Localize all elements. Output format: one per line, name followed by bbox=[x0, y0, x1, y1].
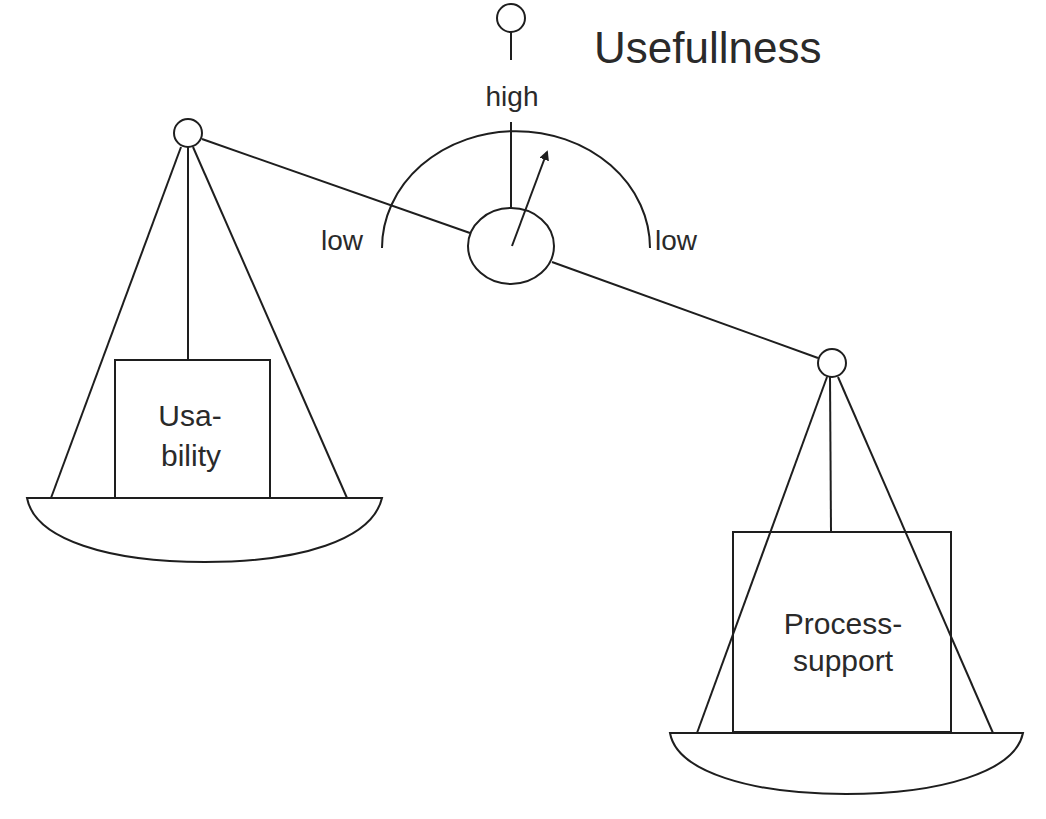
right-rope-center bbox=[830, 377, 831, 532]
gauge-low-right-label: low bbox=[655, 225, 698, 256]
left-bowl bbox=[27, 498, 382, 562]
top-knob bbox=[497, 4, 525, 32]
right-bowl bbox=[670, 733, 1023, 794]
balance-scale-diagram: Usefullness high low low Usa- bility Pro… bbox=[0, 0, 1046, 819]
beam-left bbox=[202, 139, 470, 233]
gauge-low-left-label: low bbox=[321, 225, 364, 256]
right-rope-outer bbox=[697, 377, 827, 733]
left-pivot bbox=[174, 119, 202, 147]
right-pivot bbox=[818, 349, 846, 377]
process-support-label-line1: Process- bbox=[784, 607, 902, 640]
usability-label-line2: bility bbox=[161, 439, 221, 472]
center-hub bbox=[468, 208, 554, 284]
diagram-title: Usefullness bbox=[594, 23, 821, 72]
beam-right bbox=[552, 262, 818, 358]
process-support-label-line2: support bbox=[793, 644, 894, 677]
diagram-canvas: Usefullness high low low Usa- bility Pro… bbox=[0, 0, 1046, 819]
gauge-high-label: high bbox=[486, 81, 539, 112]
usability-label-line1: Usa- bbox=[158, 399, 221, 432]
right-rope-inner bbox=[838, 377, 993, 733]
